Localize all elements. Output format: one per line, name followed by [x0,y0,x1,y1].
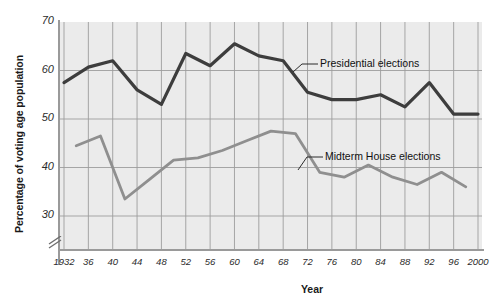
x-tick-72: 72 [302,256,313,267]
x-tick-80: 80 [351,256,362,267]
y-axis-line [58,20,60,265]
x-axis-title: Year [0,283,496,295]
y-tick-40: 40 [28,160,54,172]
x-tick-36: 36 [83,256,94,267]
x-tick-48: 48 [156,256,167,267]
chart-figure: Percentage of voting age population 3040… [0,0,496,307]
x-tick-56: 56 [205,256,216,267]
y-tick-70: 70 [28,14,54,26]
x-tick-44: 44 [132,256,143,267]
x-tick-60: 60 [229,256,240,267]
x-axis-line [58,249,484,251]
x-tick-84: 84 [375,256,386,267]
y-tick-30: 30 [28,208,54,220]
x-tick-88: 88 [400,256,411,267]
annotation-presidential: Presidential elections [320,57,419,69]
x-tick-2000: 2000 [467,256,488,267]
x-tick-40: 40 [107,256,118,267]
x-tick-52: 52 [180,256,191,267]
x-tick-96: 96 [448,256,459,267]
x-tick-76: 76 [327,256,338,267]
x-tick-1932: 1932 [53,256,74,267]
y-tick-60: 60 [28,63,54,75]
y-tick-50: 50 [28,111,54,123]
x-tick-92: 92 [424,256,435,267]
x-tick-64: 64 [254,256,265,267]
x-axis-title-text: Year [301,283,323,295]
y-axis-tick-labels: 3040506070 [20,0,54,307]
x-tick-68: 68 [278,256,289,267]
annotation-midterm: Midterm House elections [325,150,441,162]
